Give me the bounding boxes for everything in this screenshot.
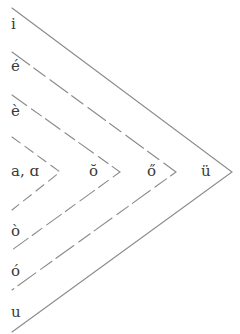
chevron-outer — [12, 8, 232, 332]
vowel-label-o-acute: ó — [11, 264, 20, 279]
vowel-label-u-umlaut: ü — [201, 164, 211, 179]
vowel-label-a: a, ɑ — [11, 164, 39, 179]
vowel-label-o-double-acute: ő — [147, 164, 156, 179]
vowel-label-o-breve: ŏ — [89, 164, 98, 179]
vowel-label-e-grave: è — [11, 104, 20, 119]
vowel-label-o-grave: ò — [11, 224, 20, 239]
vowel-label-e-acute: é — [11, 59, 20, 74]
vowel-diagram: i é è a, ɑ ò ó u ŏ ő ü — [0, 0, 240, 334]
vowel-label-u: u — [11, 305, 21, 320]
vowel-label-i: i — [11, 17, 16, 32]
